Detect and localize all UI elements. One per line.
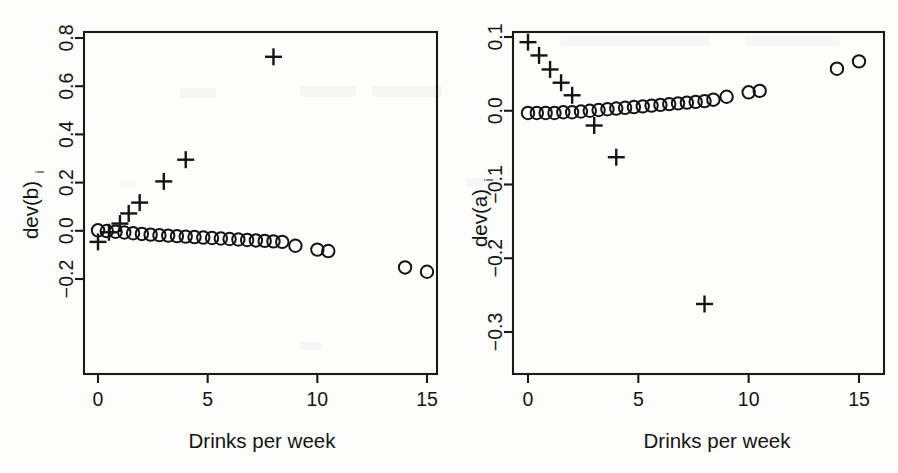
y-tick-label: 0.1: [484, 23, 506, 50]
x-tick-labels-left: 051015: [93, 388, 438, 410]
y-tick-label: 0.4: [55, 121, 77, 148]
x-tick-label: 5: [633, 388, 644, 410]
x-tick-label: 10: [306, 388, 328, 410]
y-tick-label: 0.8: [55, 24, 77, 51]
x-tick-label: 15: [416, 388, 438, 410]
data-point-plus: [564, 87, 581, 104]
x-tick-labels-right: 051015: [523, 388, 870, 410]
x-tick-label: 0: [523, 388, 534, 410]
data-point-plus: [520, 34, 537, 51]
data-point-circle: [853, 55, 865, 67]
data-markers-left: [90, 48, 434, 278]
data-point-plus: [265, 48, 282, 65]
y-axis-title-left-text: dev(b): [19, 181, 42, 239]
plot-area-dev-a: 051015 −0.3−0.2−0.10.00.1 dev(a) i Drink…: [449, 0, 898, 473]
x-tick-label: 15: [848, 388, 870, 410]
data-point-circle: [707, 93, 719, 105]
data-point-plus: [131, 194, 148, 211]
data-point-plus: [531, 47, 548, 64]
data-point-plus: [155, 173, 172, 190]
panel-dev-b: 051015 −0.20.00.20.40.60.8 dev(b) i Drin…: [0, 0, 449, 473]
x-axis-title-right: Drinks per week: [644, 429, 792, 452]
y-tick-label: 0.0: [55, 217, 77, 244]
data-point-circle: [831, 63, 843, 75]
data-point-plus: [608, 149, 625, 166]
x-tick-label: 10: [738, 388, 760, 410]
x-tick-label: 0: [93, 388, 104, 410]
data-markers-right: [520, 34, 866, 313]
plot-area-dev-b: 051015 −0.20.00.20.40.60.8 dev(b) i Drin…: [0, 0, 449, 473]
y-tick-label: −0.3: [484, 313, 506, 352]
figure-container: 051015 −0.20.00.20.40.60.8 dev(b) i Drin…: [0, 0, 898, 473]
data-point-circle: [276, 236, 288, 248]
data-point-plus: [542, 61, 559, 78]
data-point-plus: [586, 117, 603, 134]
y-axis-title-right-text: dev(a): [468, 189, 491, 247]
data-point-plus: [696, 295, 713, 312]
axis-ticks-right: [504, 37, 859, 383]
x-tick-label: 5: [202, 388, 213, 410]
y-axis-title-left: dev(b) i: [19, 171, 47, 240]
data-point-circle: [289, 240, 301, 252]
y-axis-title-left-subscript: i: [32, 171, 47, 174]
y-tick-label: 0.2: [55, 169, 77, 196]
data-point-circle: [720, 91, 732, 103]
y-tick-label: −0.2: [55, 260, 77, 299]
x-axis-title-left: Drinks per week: [189, 429, 337, 452]
y-tick-label: 0.6: [55, 73, 77, 100]
y-tick-labels-left: −0.20.00.20.40.60.8: [55, 24, 77, 298]
y-tick-label: 0.0: [484, 97, 506, 124]
y-tick-labels-right: −0.3−0.2−0.10.00.1: [484, 23, 506, 351]
data-point-plus: [177, 151, 194, 168]
data-point-plus: [111, 215, 128, 232]
data-point-circle: [399, 261, 411, 273]
panel-dev-a: 051015 −0.3−0.2−0.10.00.1 dev(a) i Drink…: [449, 0, 898, 473]
data-point-plus: [120, 205, 137, 222]
data-point-circle: [421, 266, 433, 278]
data-point-plus: [553, 74, 570, 91]
y-axis-title-right-subscript: i: [481, 179, 496, 182]
